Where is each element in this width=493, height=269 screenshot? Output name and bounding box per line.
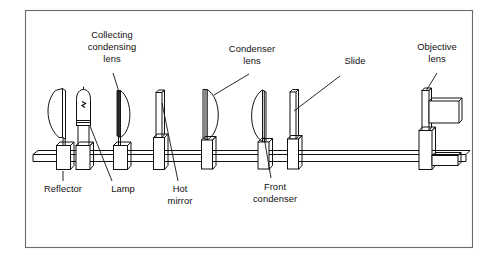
label-condenser-lens-line1: Condenser — [229, 43, 275, 54]
label-front-condenser-line1: Front — [264, 181, 286, 192]
label-collecting-condensing-lens-line2: condensing — [88, 41, 136, 52]
leader-slide — [294, 76, 340, 111]
component-condenser-lens — [202, 90, 219, 170]
label-lamp: Lamp — [111, 183, 135, 194]
label-condenser-lens-line2: lens — [243, 55, 261, 66]
label-objective-lens-line1: Objective — [417, 41, 457, 52]
label-slide: Slide — [344, 55, 365, 66]
component-front-condenser — [252, 90, 273, 170]
component-objective-lens — [419, 88, 462, 170]
figure-canvas: Collecting condensing lens Condenser len… — [0, 0, 493, 269]
component-collecting-condensing-lens — [114, 91, 132, 170]
optical-system-diagram: Collecting condensing lens Condenser len… — [0, 0, 493, 269]
label-collecting-condensing-lens-line1: Collecting — [91, 29, 133, 40]
label-front-condenser-line2: condenser — [253, 193, 297, 204]
leader-collecting-condensing-lens — [113, 73, 119, 92]
component-slide — [288, 90, 303, 170]
component-reflector — [48, 89, 74, 170]
label-collecting-condensing-lens-line3: lens — [103, 53, 121, 64]
label-reflector: Reflector — [44, 183, 82, 194]
optical-rail — [33, 151, 470, 162]
label-hot-mirror-line1: Hot — [173, 183, 188, 194]
component-hot-mirror — [154, 90, 169, 170]
label-objective-lens-line2: lens — [428, 53, 446, 64]
leader-condenser-lens — [214, 74, 249, 95]
label-hot-mirror-line2: mirror — [168, 195, 193, 206]
